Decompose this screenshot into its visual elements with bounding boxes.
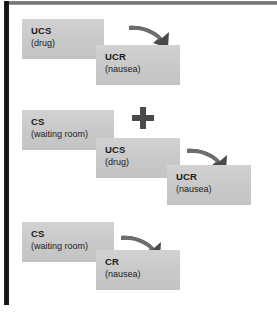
left-rule	[4, 1, 9, 305]
box-code: UCR	[105, 51, 180, 62]
box-code: CR	[105, 256, 180, 267]
box-ucr-nausea: UCR (nausea)	[96, 45, 180, 85]
box-shadow-side	[180, 254, 184, 294]
box-shadow-side	[180, 49, 184, 89]
conditioning-diagram: UCS (drug) UCR (nausea) CS (waiting room…	[0, 0, 277, 312]
box-code: UCR	[176, 171, 251, 182]
plus-operator-icon	[132, 107, 154, 129]
box-shadow	[171, 205, 255, 212]
box-ucs-drug: UCS (drug)	[22, 19, 104, 59]
box-desc: (nausea)	[176, 183, 251, 196]
box-code: UCS	[105, 144, 180, 155]
box-code: UCS	[31, 25, 104, 36]
box-code: CS	[31, 116, 114, 127]
box-code: CS	[31, 228, 114, 239]
top-rule	[8, 1, 277, 5]
box-shadow-side	[251, 169, 255, 209]
box-shadow	[100, 290, 184, 297]
box-desc: (nausea)	[105, 63, 180, 76]
box-ucr-nausea-2: UCR (nausea)	[167, 165, 251, 205]
box-desc: (drug)	[31, 37, 104, 50]
box-shadow	[100, 85, 184, 92]
box-desc: (nausea)	[105, 268, 180, 281]
box-cr-nausea: CR (nausea)	[96, 250, 180, 290]
